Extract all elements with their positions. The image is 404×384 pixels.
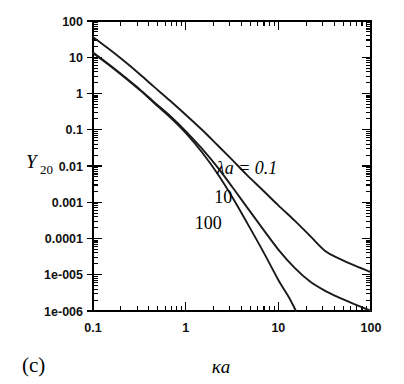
- y-tick-label: 0.0001: [45, 232, 83, 246]
- y-tick-label: 0.001: [52, 196, 83, 210]
- y-tick-label: 0.01: [59, 160, 83, 174]
- curve-label: 10: [214, 187, 232, 207]
- figure-panel: 0.1110100 1001010.10.010.0010.00011e-005…: [0, 0, 404, 384]
- y-tick-label: 100: [62, 15, 83, 29]
- x-tick-label: 10: [271, 321, 285, 335]
- curve-label: 100: [195, 213, 222, 233]
- curve-100: [93, 53, 296, 311]
- x-tick-label: 100: [361, 321, 382, 335]
- x-axis-title: κa: [212, 356, 231, 377]
- y-tick-label: 10: [69, 51, 83, 65]
- panel-label: (c): [22, 353, 45, 377]
- curve-10: [93, 53, 371, 311]
- chart-canvas: 0.1110100 1001010.10.010.0010.00011e-005…: [0, 0, 404, 384]
- y-tick-label: 1e-005: [44, 268, 83, 282]
- curve-label: λa = 0.1: [216, 158, 277, 178]
- x-tick-label: 0.1: [84, 321, 101, 335]
- x-tick-label: 1: [182, 321, 189, 335]
- y-axis-title-subscript: 20: [40, 162, 53, 177]
- y-tick-label: 1: [76, 87, 83, 101]
- y-tick-label: 1e-006: [44, 305, 83, 319]
- curve--a-0-1: [93, 37, 371, 272]
- x-axis-tick-labels: 0.1110100: [84, 321, 381, 335]
- curve-annotations: λa = 0.110100: [195, 158, 278, 234]
- y-axis-title: Y: [26, 151, 39, 172]
- y-tick-label: 0.1: [66, 123, 83, 137]
